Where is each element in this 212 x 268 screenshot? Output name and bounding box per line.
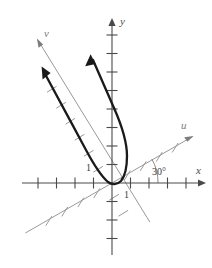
figure-container: y x u v 30° 1 1 [0, 0, 212, 268]
tick-label-unit-v: 1 [86, 163, 91, 173]
v-axis-label: v [44, 28, 49, 39]
y-axis-group [107, 18, 118, 255]
v-axis-line [38, 40, 150, 222]
tick-label-unit-x: 1 [124, 190, 129, 200]
y-axis-label: y [120, 16, 125, 27]
x-axis-arrowhead [198, 179, 206, 186]
x-axis-label: x [196, 165, 201, 176]
v-axis-group [37, 38, 150, 222]
angle-label-30deg: 30° [152, 167, 166, 177]
u-axis-label: u [181, 120, 187, 131]
coordinate-diagram [0, 0, 212, 268]
x-axis-group [22, 178, 206, 189]
u-axis-group [25, 136, 193, 233]
y-axis-arrowhead [108, 18, 115, 26]
